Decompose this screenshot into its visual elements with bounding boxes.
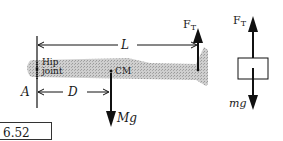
tension-label-block-main: F bbox=[233, 14, 241, 27]
length-label: L bbox=[121, 39, 129, 51]
tension-arrow-block bbox=[248, 16, 258, 58]
distance-label: D bbox=[68, 86, 78, 98]
answer-box: 6.52 kg. bbox=[0, 122, 52, 140]
tension-label-leg-sub: T bbox=[191, 23, 196, 32]
weight-arrow-mg bbox=[106, 73, 116, 127]
tension-label-leg-main: F bbox=[183, 18, 191, 31]
hip-joint-dot bbox=[36, 68, 39, 71]
hip-label: Hip joint bbox=[42, 58, 63, 76]
center-of-mass-dot bbox=[110, 70, 113, 73]
tension-label-block: FT bbox=[233, 15, 246, 28]
weight-label-block: mg bbox=[229, 98, 246, 109]
weight-label-block-text: mg bbox=[229, 97, 246, 110]
tension-label-leg: FT bbox=[183, 19, 196, 32]
point-a-label: A bbox=[21, 86, 30, 98]
weight-label-mg: Mg bbox=[117, 112, 137, 124]
length-dimension-arrow bbox=[38, 42, 197, 48]
cm-label: CM bbox=[115, 67, 131, 76]
hip-label-line2: joint bbox=[42, 67, 63, 76]
tension-label-block-sub: T bbox=[241, 19, 246, 28]
